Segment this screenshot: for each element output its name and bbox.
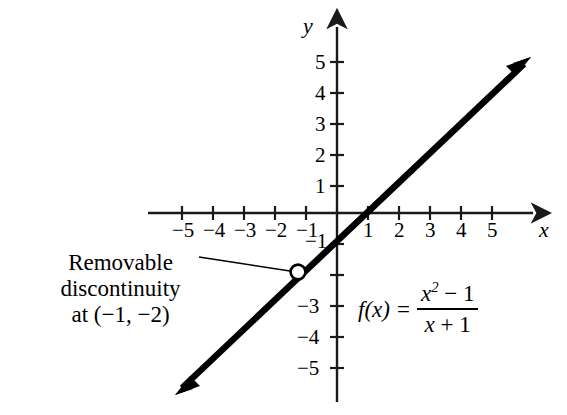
x-tick-label-1: 1 (363, 220, 374, 241)
y-tick-label--5: −5 (297, 358, 319, 379)
y-tick-label--3: −3 (297, 296, 319, 317)
y-tick-label--4: −4 (297, 327, 319, 348)
x-axis-label: x (539, 219, 549, 241)
numerator-variable: x (421, 281, 431, 306)
y-tick-label--1: −1 (305, 231, 327, 252)
removable-discontinuity-annotation: Removable discontinuity at (−1, −2) (18, 250, 223, 327)
x-tick-label--2: −2 (265, 220, 287, 241)
x-tick-label--5: −5 (172, 220, 194, 241)
denominator-tail: + 1 (441, 312, 471, 337)
annotation-line-2: discontinuity (18, 276, 223, 302)
x-tick-label--3: −3 (234, 220, 256, 241)
removable-discontinuity-hole (291, 265, 306, 280)
coordinate-plane (0, 0, 567, 415)
y-tick-label-1: 1 (315, 176, 326, 197)
x-tick-label-5: 5 (487, 220, 498, 241)
x-tick-label-4: 4 (456, 220, 467, 241)
y-tick-label-2: 2 (315, 145, 326, 166)
x-tick-label--4: −4 (203, 220, 225, 241)
formula-lhs: f(x) (358, 297, 390, 323)
numerator-tail: − 1 (444, 281, 474, 306)
x-tick-label-3: 3 (425, 220, 436, 241)
denominator-variable: x (425, 312, 435, 337)
y-axis-label: y (303, 15, 313, 37)
formula-fraction: x2 − 1 x + 1 (417, 281, 479, 338)
y-tick-label-4: 4 (315, 83, 326, 104)
graph-figure: −5 −4 −3 −2 −1 1 2 3 4 5 5 4 3 2 1 −1 −3… (0, 0, 567, 415)
annotation-line-3: at (−1, −2) (18, 302, 223, 328)
annotation-line-1: Removable (18, 250, 223, 276)
numerator-exponent: 2 (431, 279, 438, 295)
formula-numerator: x2 − 1 (417, 281, 479, 308)
y-tick-label-3: 3 (315, 114, 326, 135)
x-tick-label-2: 2 (394, 220, 405, 241)
formula-denominator: x + 1 (421, 310, 475, 338)
formula-equals: = (397, 297, 410, 323)
y-tick-label-5: 5 (315, 52, 326, 73)
function-curve (175, 57, 531, 395)
function-formula: f(x) = x2 − 1 x + 1 (358, 281, 478, 338)
